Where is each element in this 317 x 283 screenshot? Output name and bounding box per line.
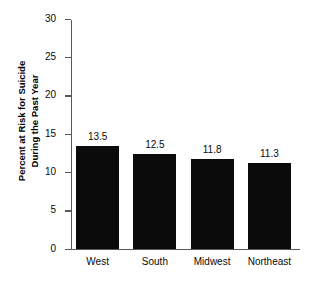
bars-layer: 13.512.511.811.3: [71, 20, 300, 250]
x-axis-label: West: [86, 256, 109, 267]
y-axis-title-line-2: During the Past Year: [29, 75, 41, 168]
y-axis-tick-label: 15: [45, 129, 56, 139]
bar-chart: Percent at Risk for Suicide During the P…: [0, 0, 317, 283]
plot-area: 051015202530 13.512.511.811.3: [71, 20, 300, 250]
bar: [76, 146, 119, 250]
bar-group: 11.3: [248, 141, 291, 250]
bar-value-label: 11.3: [260, 149, 279, 159]
bar: [191, 159, 234, 249]
bar: [248, 163, 291, 250]
x-axis-label: Midwest: [194, 256, 231, 267]
bar-value-label: 12.5: [145, 140, 164, 150]
bar-group: 11.8: [191, 137, 234, 249]
bar-value-label: 11.8: [203, 145, 222, 155]
bar: [133, 154, 176, 250]
y-axis-tick-label: 5: [50, 205, 56, 215]
y-axis-title-line-1: Percent at Risk for Suicide: [16, 61, 28, 181]
x-axis-label: South: [142, 256, 168, 267]
bar-group: 12.5: [133, 132, 176, 250]
bar-group: 13.5: [76, 124, 119, 250]
y-axis-title: Percent at Risk for Suicide During the P…: [10, 6, 46, 236]
y-axis-tick-label: 10: [45, 167, 56, 177]
y-axis-tick-label: 0: [50, 244, 56, 254]
y-axis-tick-label: 25: [45, 52, 56, 62]
x-axis-label: Northeast: [248, 256, 291, 267]
bar-value-label: 13.5: [88, 132, 107, 142]
y-axis-tick-label: 20: [45, 90, 56, 100]
y-axis-tick-label: 30: [45, 14, 56, 24]
